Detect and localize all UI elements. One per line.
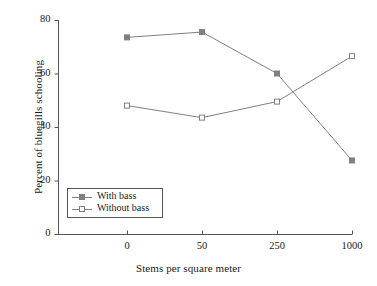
- y-tick-label: 80: [17, 13, 51, 24]
- x-tick-label: 0: [97, 240, 157, 251]
- x-axis-ticks: [128, 231, 353, 235]
- y-axis-title: Percent of bluegills schooling: [32, 27, 44, 227]
- series-line: [127, 56, 352, 118]
- data-point-marker-open: [200, 115, 205, 120]
- x-axis-title: Stems per square meter: [0, 262, 377, 274]
- data-point-marker-open: [125, 103, 130, 108]
- y-axis-ticks: [55, 21, 59, 235]
- data-point-marker-filled: [200, 30, 205, 35]
- data-point-marker-filled: [275, 71, 280, 76]
- x-tick-label: 1000: [322, 240, 377, 251]
- chart-figure: 020406080 0502501000 With bassWithout ba…: [0, 0, 377, 286]
- data-point-marker-open: [350, 54, 355, 59]
- x-tick-label: 250: [247, 240, 307, 251]
- x-tick-label: 50: [172, 240, 232, 251]
- data-series-group: [125, 30, 355, 163]
- legend-entry-label: With bass: [97, 190, 136, 201]
- data-point-marker-open: [80, 207, 85, 212]
- legend-entry-label: Without bass: [97, 202, 149, 213]
- series-line: [127, 32, 352, 160]
- data-point-marker-filled: [80, 195, 85, 200]
- data-point-marker-filled: [125, 35, 130, 40]
- data-point-marker-open: [275, 99, 280, 104]
- y-tick-label: 0: [17, 227, 51, 238]
- data-point-marker-filled: [350, 158, 355, 163]
